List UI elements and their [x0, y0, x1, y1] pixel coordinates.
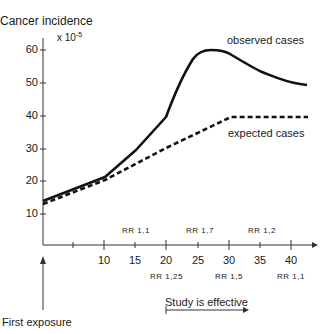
- rr-label-above: RR 1,7: [186, 226, 214, 235]
- arrow-up-icon: [40, 256, 46, 264]
- chart-canvas: [0, 0, 329, 334]
- rr-label-above: RR 1,1: [122, 226, 150, 235]
- y-tick-label: 40: [10, 109, 38, 121]
- y-tick-label: 30: [10, 142, 38, 154]
- first-exposure-label: First exposure: [2, 316, 72, 328]
- y-tick-label: 50: [10, 76, 38, 88]
- observed-cases-line: [43, 50, 307, 201]
- y-unit-exponent: -5: [76, 31, 82, 38]
- rr-label-below: RR 1,25: [150, 272, 183, 281]
- x-axis-arrow-icon: [312, 242, 318, 248]
- x-tick-label: 40: [281, 254, 301, 266]
- x-tick-label: 30: [219, 254, 239, 266]
- rr-label-below: RR 1,5: [215, 272, 243, 281]
- expected-cases-label: expected cases: [228, 127, 304, 139]
- rr-label-below: RR 1,1: [277, 272, 305, 281]
- y-unit-base: x 10: [57, 32, 76, 43]
- y-tick-label: 20: [10, 174, 38, 186]
- x-tick-label: 25: [188, 254, 208, 266]
- x-tick-label: 35: [250, 254, 270, 266]
- study-effective-label: Study is effective: [165, 296, 248, 308]
- x-tick-label: 10: [94, 254, 114, 266]
- observed-cases-label: observed cases: [227, 34, 304, 46]
- y-tick-label: 10: [10, 207, 38, 219]
- x-tick-label: 20: [156, 254, 176, 266]
- y-tick-label: 60: [10, 43, 38, 55]
- y-axis-title: Cancer incidence: [0, 14, 93, 28]
- y-axis-unit: x 10-5: [57, 31, 82, 43]
- rr-label-above: RR 1,2: [248, 226, 276, 235]
- x-tick-label: 15: [125, 254, 145, 266]
